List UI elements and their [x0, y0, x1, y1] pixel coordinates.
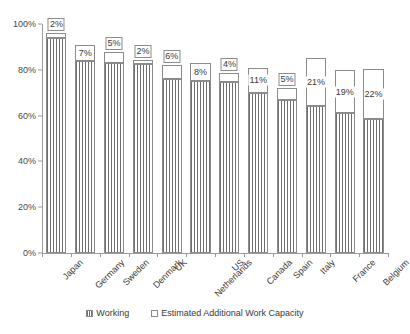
- y-axis-tick-label: 20%: [0, 203, 36, 212]
- bar-segment-working: [162, 79, 182, 253]
- bar-group: 22%: [363, 24, 383, 253]
- bar-segment-additional-capacity: 19%: [335, 70, 355, 114]
- x-axis-tick-mark: [244, 253, 245, 257]
- x-axis-category-label: Sweden: [122, 258, 151, 287]
- bar-segment-additional-capacity: 8%: [190, 63, 210, 81]
- bar-segment-additional-capacity: 21%: [306, 58, 326, 106]
- bar-segment-working: [363, 119, 383, 253]
- bar-segment-working: [335, 113, 355, 253]
- y-axis-tick-label: 60%: [0, 111, 36, 120]
- bar-segment-additional-capacity: 5%: [277, 88, 297, 99]
- x-axis-tick-mark: [100, 253, 101, 257]
- bar-segment-additional-capacity: 22%: [363, 69, 383, 119]
- x-axis-category-label: Canada: [265, 258, 294, 287]
- x-axis-tick-mark: [157, 253, 158, 257]
- bar-segment-additional-capacity: 7%: [75, 45, 95, 61]
- bar-segment-working: [104, 63, 124, 253]
- x-axis-category-label: Japan: [62, 258, 86, 282]
- bar-data-label: 21%: [306, 77, 326, 88]
- x-axis-tick-mark: [302, 253, 303, 257]
- bar-data-label: 2%: [134, 45, 151, 58]
- bar-segment-working: [46, 38, 66, 253]
- bar-segment-working: [277, 100, 297, 253]
- y-axis-tick-label: 40%: [0, 157, 36, 166]
- bar-group: 7%: [75, 24, 95, 253]
- bar-group: 19%: [335, 24, 355, 253]
- legend-item-label: Working: [96, 308, 129, 318]
- bar-group: 11%: [248, 24, 268, 253]
- x-axis-tick-mark: [42, 253, 43, 257]
- bar-group: 2%: [46, 24, 66, 253]
- bar-data-label: 5%: [279, 73, 296, 86]
- bar-data-label: 19%: [335, 86, 355, 97]
- x-axis-category-label: Germany: [94, 258, 127, 291]
- bar-segment-working: [219, 82, 239, 253]
- bar-segment-working: [190, 81, 210, 253]
- bar-segment-additional-capacity: 5%: [104, 52, 124, 63]
- x-axis-tick-mark: [359, 253, 360, 257]
- bar-segment-additional-capacity: 4%: [219, 73, 239, 82]
- bar-segment-additional-capacity: 2%: [46, 33, 66, 38]
- bar-data-label: 8%: [193, 67, 208, 78]
- bar-data-label: 7%: [78, 47, 93, 58]
- bar-data-label: 22%: [364, 88, 384, 99]
- x-axis-tick-mark: [71, 253, 72, 257]
- bar-group: 5%: [277, 24, 297, 253]
- bar-group: 4%: [219, 24, 239, 253]
- x-axis-category-label: Italy: [319, 258, 337, 276]
- bar-segment-additional-capacity: 6%: [162, 65, 182, 79]
- x-axis-category-label: Spain: [292, 258, 315, 281]
- bar-segment-working: [306, 106, 326, 253]
- bar-data-label: 6%: [163, 50, 180, 63]
- y-axis-tick-label: 100%: [0, 20, 36, 29]
- x-axis-category-label: Belgium: [381, 258, 410, 287]
- bar-segment-working: [75, 61, 95, 253]
- bar-segment-working: [248, 93, 268, 253]
- bar-data-label: 2%: [48, 18, 65, 31]
- bar-group: 2%: [133, 24, 153, 253]
- x-axis-category-label: France: [351, 258, 377, 284]
- bar-series-container: 2%7%5%2%6%8%4%11%5%21%19%22%: [42, 24, 388, 253]
- legend-item-label: Estimated Additional Work Capacity: [161, 308, 303, 318]
- x-axis-tick-mark: [186, 253, 187, 257]
- x-axis-tick-mark: [273, 253, 274, 257]
- bar-segment-additional-capacity: 11%: [248, 68, 268, 93]
- bar-group: 6%: [162, 24, 182, 253]
- bar-data-label: 4%: [221, 58, 238, 71]
- empty-square-icon: [151, 310, 158, 317]
- bar-data-label: 11%: [249, 75, 268, 86]
- y-axis-tick-label: 80%: [0, 65, 36, 74]
- y-axis-tick-label: 0%: [0, 249, 36, 258]
- bar-group: 21%: [306, 24, 326, 253]
- legend-item: Estimated Additional Work Capacity: [151, 308, 303, 318]
- bar-segment-additional-capacity: 2%: [133, 60, 153, 65]
- x-axis-tick-mark: [388, 253, 389, 257]
- bar-group: 8%: [190, 24, 210, 253]
- legend-item: Working: [86, 308, 129, 318]
- x-axis-tick-mark: [215, 253, 216, 257]
- hatched-square-icon: [86, 310, 93, 317]
- bar-group: 5%: [104, 24, 124, 253]
- x-axis-tick-mark: [129, 253, 130, 257]
- bar-data-label: 5%: [106, 37, 123, 50]
- chart-legend: WorkingEstimated Additional Work Capacit…: [0, 308, 390, 318]
- bar-segment-working: [133, 64, 153, 253]
- plot-area: 2%7%5%2%6%8%4%11%5%21%19%22%: [42, 24, 388, 253]
